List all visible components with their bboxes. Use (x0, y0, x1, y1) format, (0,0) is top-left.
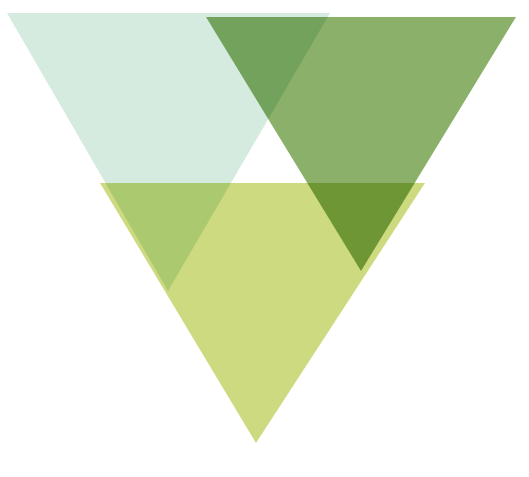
artwork-canvas: Overlapping Inverted Triangles (0, 0, 529, 477)
artboard: Overlapping Inverted Triangles (0, 0, 529, 477)
